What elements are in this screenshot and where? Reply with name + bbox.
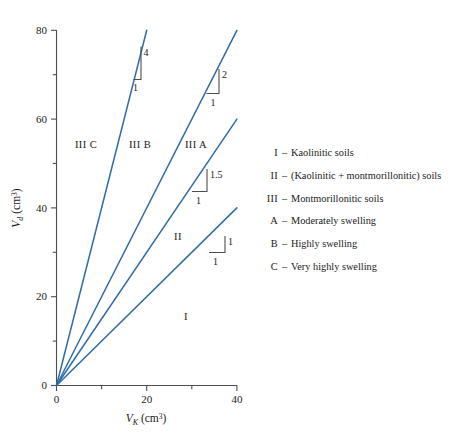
region-label-iii-c: III C — [75, 139, 97, 150]
legend-dash-iii: – — [278, 193, 291, 204]
region-label-iii-a: III A — [185, 139, 207, 150]
x-tick-label-40: 40 — [231, 393, 243, 405]
slope-triangle-1-run: 1 — [213, 256, 218, 267]
legend-dash-b: – — [278, 238, 291, 249]
y-axis-ticks — [51, 30, 57, 385]
region-label-ii: II — [174, 231, 182, 242]
legend-row-i: I – Kaolinitic soils — [256, 147, 446, 158]
x-axis-title-units: (cm — [141, 412, 159, 425]
slope-triangle-2: 2 1 — [207, 69, 228, 108]
slope-triangle-4-run: 1 — [133, 82, 138, 93]
x-tick-label-20: 20 — [141, 393, 153, 405]
chart-figure: 0 20 40 60 80 0 20 40 VK (cm3) — [0, 0, 449, 443]
legend-key-b: B — [256, 238, 278, 249]
legend-row-c: C – Very highly swelling — [256, 261, 446, 272]
data-series-lines — [57, 30, 237, 385]
legend-dash-a: – — [278, 215, 291, 226]
x-axis-ticks — [57, 386, 237, 392]
svg-text:Vd (cm3): Vd (cm3) — [10, 188, 25, 228]
legend-key-i: I — [256, 147, 278, 158]
chart-legend: I – Kaolinitic soils II – (Kaolinitic + … — [256, 147, 446, 284]
legend-text-b: Highly swelling — [291, 238, 446, 249]
region-labels: III C III B III A II I — [75, 139, 207, 322]
y-axis-tick-labels: 0 20 40 60 80 — [36, 24, 48, 391]
slope-triangle-1: 1 1 — [209, 236, 233, 267]
legend-text-a: Moderately swelling — [291, 215, 446, 226]
x-axis-title-close: ) — [163, 412, 167, 425]
legend-text-i: Kaolinitic soils — [291, 147, 446, 158]
y-tick-label-40: 40 — [36, 202, 48, 214]
svg-text:VK (cm3): VK (cm3) — [126, 412, 167, 427]
legend-dash-ii: – — [278, 170, 291, 181]
legend-key-c: C — [256, 261, 278, 272]
x-tick-label-0: 0 — [54, 393, 60, 405]
y-axis-title-units: (cm — [10, 196, 23, 214]
legend-text-c: Very highly swelling — [291, 261, 446, 272]
region-label-iii-b: III B — [129, 139, 151, 150]
slope-triangle-1-rise: 1 — [228, 236, 233, 247]
slope-triangle-4: 4 1 — [133, 47, 149, 93]
y-tick-label-20: 20 — [36, 290, 48, 302]
legend-row-a: A – Moderately swelling — [256, 215, 446, 226]
legend-row-iii: III – Montmorillonitic soils — [256, 193, 446, 204]
legend-row-b: B – Highly swelling — [256, 238, 446, 249]
legend-text-iii: Montmorillonitic soils — [291, 193, 446, 204]
legend-key-iii: III — [256, 193, 278, 204]
legend-key-a: A — [256, 215, 278, 226]
y-axis-title: Vd (cm3) — [10, 188, 25, 228]
legend-row-ii: II – (Kaolinitic + montmorillonitic) soi… — [256, 170, 446, 181]
legend-dash-i: – — [278, 147, 291, 158]
slope-triangle-2-run: 1 — [211, 97, 216, 108]
legend-key-ii: II — [256, 170, 278, 181]
data-line-slope-1 — [57, 208, 237, 386]
data-line-slope-2 — [57, 30, 237, 385]
x-axis-title: VK (cm3) — [126, 412, 167, 427]
slope-triangle-1p5: 1.5 1 — [192, 169, 223, 206]
x-axis-tick-labels: 0 20 40 — [54, 393, 243, 405]
y-tick-label-0: 0 — [42, 379, 48, 391]
slope-triangle-1p5-rise: 1.5 — [210, 169, 223, 180]
y-tick-label-60: 60 — [36, 113, 48, 125]
region-label-i: I — [184, 311, 188, 322]
legend-text-ii: (Kaolinitic + montmorillonitic) soils — [291, 170, 446, 181]
slope-triangle-4-rise: 4 — [144, 47, 149, 58]
y-axis-title-close: ) — [10, 188, 23, 192]
legend-dash-c: – — [278, 261, 291, 272]
slope-triangle-1p5-run: 1 — [196, 195, 201, 206]
slope-triangle-2-rise: 2 — [222, 69, 227, 80]
y-tick-label-80: 80 — [36, 24, 48, 36]
